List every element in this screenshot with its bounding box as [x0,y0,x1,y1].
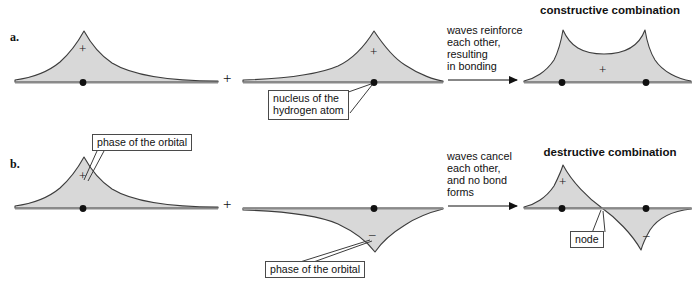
callout-nucleus-hydrogen-atom: nucleus of the hydrogen atom [268,90,349,120]
nucleus-dot [371,205,378,212]
nucleus-dot [80,205,87,212]
callout-line-2: hydrogen atom [273,104,344,116]
orbital-wave-shape [15,157,218,208]
row-b-result-positive-phase-sign: + [559,174,566,190]
nucleus-dot [80,79,87,86]
row-a-caption-line-2: each other, [447,37,500,49]
node-leader-lines [592,210,605,233]
row-b-result-orbital [524,165,692,250]
row-b-orbital-1-phase-sign: + [79,168,86,184]
row-a-caption-line-1: waves reinforce [447,25,523,37]
row-a-orbital-1 [15,31,218,86]
nucleus-dot [643,205,650,212]
constructive-combination-title: constructive combination [524,4,696,16]
row-a-orbital-2 [243,31,443,86]
orbital-wave-shape [243,31,443,82]
panel-letter-a: a. [10,30,19,45]
row-b-plus-operator: + [223,196,231,213]
nucleus-dot [559,205,566,212]
row-a-result-phase-sign: + [599,62,606,78]
callout-node: node [570,231,604,248]
row-b-orbital-1 [15,157,218,212]
row-a-caption-line-4: in bonding [447,61,497,73]
row-a-orbital-1-phase-sign: + [79,41,86,57]
figure-canvas: a. b. + + + + + + – + – constructive com… [0,0,698,290]
panel-letter-b: b. [10,157,20,172]
row-a-plus-operator: + [223,70,231,87]
row-a-result-orbital [524,30,692,86]
callout-phase-of-orbital-bottom: phase of the orbital [265,261,365,278]
orbital-wave-shape-inverted [243,208,443,252]
row-b-caption-line-3: and no bond [447,175,507,187]
row-b-result-negative-phase-sign: – [643,227,650,243]
row-b-caption-line-2: each other, [447,163,500,175]
row-b-orbital-2 [243,205,443,252]
callout-phase-of-orbital-top: phase of the orbital [92,134,192,151]
row-b-caption-line-4: forms [447,187,474,199]
destructive-combination-title: destructive combination [524,146,696,158]
nucleus-dot [559,79,566,86]
orbital-wave-shape [15,31,218,82]
row-b-caption-line-1: waves cancel [447,151,512,163]
callout-line-1: nucleus of the [273,92,344,104]
row-b-orbital-2-phase-sign: – [369,226,376,242]
row-a-orbital-2-phase-sign: + [370,44,377,60]
nucleus-dot [643,79,650,86]
row-a-caption-line-3: resulting [447,49,488,61]
constructive-combination-shape [524,30,691,82]
